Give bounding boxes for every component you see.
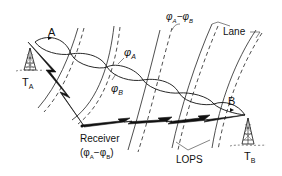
lop-4-solid (172, 24, 212, 148)
transmitter-a-icon (16, 48, 44, 71)
wave-envelope (35, 36, 245, 115)
diagram-canvas: A B φA φB φA−φB Lane Receiver (φA−φB) LO… (0, 0, 282, 176)
wave-a (35, 38, 245, 115)
lop-5-solid (212, 30, 256, 148)
label-receiver: Receiver (80, 133, 120, 144)
arrow-b-icon (230, 108, 234, 112)
label-lops: LOPS (176, 154, 203, 165)
navigation-diagram: A B φA φB φA−φB Lane Receiver (φA−φB) LO… (0, 0, 282, 176)
label-phi-a: φA (124, 46, 136, 60)
phi-b-pointer (112, 74, 116, 80)
signal-bolt-b (82, 115, 245, 127)
lops-bracket (176, 140, 210, 150)
label-wave-a: A (48, 26, 56, 38)
receiver-point (81, 125, 84, 128)
label-receiver-formula: (φA−φB) (80, 147, 114, 160)
lop-1-solid (38, 28, 78, 108)
lop-3-dashed (138, 28, 172, 152)
lop-2-dashed (78, 27, 120, 124)
lines-of-position (38, 24, 262, 152)
label-transmitter-b: TB (244, 150, 256, 164)
signal-bolt-a (28, 42, 84, 126)
label-transmitter-a: TA (22, 76, 34, 90)
phi-a-pointer (118, 58, 124, 64)
label-phi-b: φB (111, 82, 123, 96)
lop-2-solid (72, 26, 114, 120)
lop-4-dashed (178, 26, 218, 150)
transmitter-b-icon (230, 118, 266, 146)
label-phase-difference: φA−φB (166, 11, 193, 24)
phase-diff-pointer (172, 24, 180, 30)
label-wave-b: B (228, 95, 235, 107)
wave-b (35, 42, 245, 115)
lop-5-dashed (218, 33, 262, 150)
label-lane: Lane (223, 26, 246, 37)
